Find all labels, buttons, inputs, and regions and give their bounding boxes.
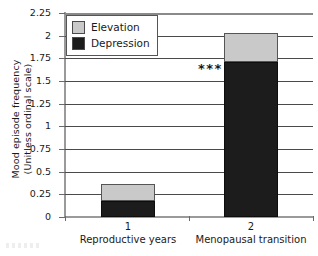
y-tick-label-0.75: 0.75 bbox=[11, 144, 51, 154]
legend-label-depression: Depression bbox=[91, 38, 150, 49]
x-category-reproductive-years: 1 Reproductive years bbox=[63, 221, 193, 246]
significance-annotation: *** bbox=[198, 64, 223, 74]
legend-swatch-depression bbox=[72, 37, 85, 50]
y-tick-1.25: 1.25 bbox=[59, 104, 65, 105]
x-category-menopausal-transition: 2 Menopausal transition bbox=[186, 221, 316, 246]
chart-figure: Mood episode frequency (Unitless ordinal… bbox=[0, 0, 318, 256]
y-tick-label-1: 1 bbox=[11, 121, 51, 131]
y-tick-2.25: 2.25 bbox=[59, 13, 65, 14]
bar-segment-elevation[interactable] bbox=[224, 33, 278, 62]
legend-item-elevation[interactable]: Elevation bbox=[72, 19, 150, 35]
bar-segment-depression[interactable] bbox=[101, 201, 155, 217]
bar-segment-elevation[interactable] bbox=[101, 184, 155, 201]
y-tick-1: 1 bbox=[59, 126, 65, 127]
y-tick-label-0.25: 0.25 bbox=[11, 189, 51, 199]
chart-legend: Elevation Depression bbox=[66, 15, 158, 56]
y-tick-1.5: 1.5 bbox=[59, 81, 65, 82]
legend-swatch-elevation bbox=[72, 21, 85, 34]
y-tick-label-1.75: 1.75 bbox=[11, 53, 51, 63]
x-category-label-1: Reproductive years bbox=[63, 233, 193, 246]
y-tick-1.75: 1.75 bbox=[59, 58, 65, 59]
y-tick-0.5: 0.5 bbox=[59, 172, 65, 173]
y-tick-label-1.5: 1.5 bbox=[11, 76, 51, 86]
legend-label-elevation: Elevation bbox=[91, 22, 140, 33]
y-tick-label-2.25: 2.25 bbox=[11, 8, 51, 18]
scan-artifact bbox=[6, 243, 40, 248]
x-category-number-1: 1 bbox=[63, 221, 193, 233]
y-tick-label-2: 2 bbox=[11, 31, 51, 41]
legend-item-depression[interactable]: Depression bbox=[72, 35, 150, 51]
y-tick-label-0: 0 bbox=[11, 212, 51, 222]
x-category-label-2: Menopausal transition bbox=[186, 233, 316, 246]
y-tick-0.75: 0.75 bbox=[59, 149, 65, 150]
y-tick-label-1.25: 1.25 bbox=[11, 99, 51, 109]
x-category-number-2: 2 bbox=[186, 221, 316, 233]
bar-segment-depression[interactable] bbox=[224, 62, 278, 217]
y-tick-2: 2 bbox=[59, 36, 65, 37]
y-tick-0.25: 0.25 bbox=[59, 194, 65, 195]
y-tick-label-0.5: 0.5 bbox=[11, 167, 51, 177]
